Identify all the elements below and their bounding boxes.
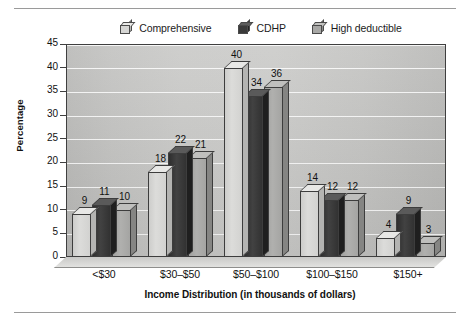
legend-label-high-deductible: High deductible (331, 22, 402, 34)
bar-comprehensive-4[interactable] (376, 238, 395, 257)
legend-label-cdhp: CDHP (257, 22, 286, 34)
chart-floor-3d (66, 257, 458, 268)
bar-comprehensive-2[interactable] (224, 68, 243, 257)
bar-series-container: 91110182221403436141212493 (66, 44, 446, 257)
bar-comprehensive-3[interactable] (300, 191, 319, 257)
legend-swatch-cdhp (238, 22, 251, 34)
bar-comprehensive-1[interactable] (148, 172, 167, 257)
legend-item-comprehensive[interactable]: Comprehensive (120, 22, 211, 34)
top-divider-rule (14, 8, 456, 9)
y-tick-label: 0 (30, 250, 58, 261)
y-tick-label: 15 (30, 179, 58, 190)
y-tick-label: 35 (30, 84, 58, 95)
bar-value-label: 3 (415, 224, 443, 235)
legend-swatch-high-deductible (312, 22, 325, 34)
legend-swatch-comprehensive (120, 22, 133, 34)
bar-value-label: 40 (223, 49, 251, 60)
bar-value-label: 9 (395, 195, 423, 206)
bar-comprehensive-0[interactable] (72, 214, 91, 257)
bar-group (148, 44, 207, 257)
bar-value-label: 21 (187, 139, 215, 150)
y-axis-title: Percentage (14, 76, 25, 176)
y-tick-label: 45 (30, 37, 58, 48)
bar-value-label: 10 (111, 191, 139, 202)
bar-value-label: 9 (71, 195, 99, 206)
x-tick-label: $150+ (363, 268, 453, 280)
y-tick-label: 25 (30, 132, 58, 143)
chart-legend: Comprehensive CDHP High deductible (66, 18, 456, 38)
bottom-divider-rule (14, 312, 456, 313)
bar-value-label: 4 (375, 219, 403, 230)
bar-value-label: 34 (243, 77, 271, 88)
bar-value-label: 18 (147, 153, 175, 164)
bar-group (72, 44, 131, 257)
y-tick-label: 40 (30, 61, 58, 72)
bar-value-label: 12 (339, 181, 367, 192)
bar-group (300, 44, 359, 257)
y-tick-label: 30 (30, 108, 58, 119)
y-tick-label: 5 (30, 226, 58, 237)
y-tick-label: 20 (30, 155, 58, 166)
bar-value-label: 36 (263, 68, 291, 79)
y-tick-label: 10 (30, 203, 58, 214)
legend-label-comprehensive: Comprehensive (139, 22, 211, 34)
chart-figure: Comprehensive CDHP High deductible Perce… (0, 0, 470, 321)
legend-item-cdhp[interactable]: CDHP (238, 22, 286, 34)
legend-item-high-deductible[interactable]: High deductible (312, 22, 402, 34)
x-axis-title: Income Distribution (in thousands of dol… (40, 289, 460, 300)
